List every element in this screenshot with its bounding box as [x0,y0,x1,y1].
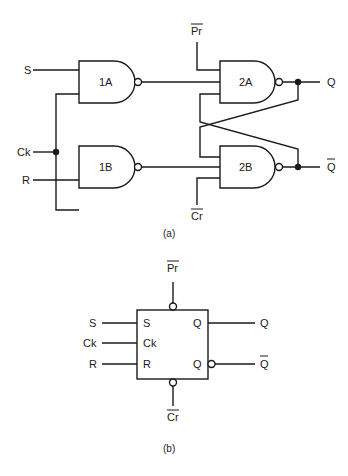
gate-label-1a: 1A [99,76,113,88]
gate-label-1b: 1B [99,161,112,173]
nand-gate-1b: 1B [79,146,142,188]
figure-b: Pr Cr S S Ck Ck R R Q Q Q Q (b) [83,261,269,454]
wire-ck-split [56,94,79,210]
inversion-bubble-icon [276,164,283,171]
figure-a: S Ck R 1A 1B Pr Cr [17,24,336,239]
input-label-ck: Ck [17,146,31,158]
output-label-q: Q [327,76,336,88]
input-label-r: R [22,174,30,186]
input-label-cr: Cr [167,411,179,423]
input-label-ck: Ck [83,337,97,349]
inversion-bubble-icon [208,361,215,368]
input-label-pr: Pr [167,262,178,274]
inversion-bubble-icon [276,79,283,86]
gate-label-2b: 2B [239,161,252,173]
wire-pr [197,42,220,70]
output-label-qbar: Q [327,161,336,173]
gate-label-2a: 2A [239,76,253,88]
pin-label-qbar: Q [193,358,202,370]
input-label-s: S [24,64,31,76]
inversion-bubble-icon [135,79,142,86]
wire-cr [197,178,220,205]
nand-gate-2a: 2A [220,61,283,103]
pin-label-s: S [143,317,150,329]
output-label-q: Q [260,317,269,329]
nand-gate-2b: 2B [220,146,283,188]
output-label-qbar: Q [260,358,269,370]
input-label-cr: Cr [191,210,203,222]
pin-label-q: Q [193,317,202,329]
pin-label-r: R [143,358,151,370]
nand-gate-1a: 1A [79,61,142,103]
inversion-bubble-icon [135,164,142,171]
rs-flipflop-diagram: S Ck R 1A 1B Pr Cr [0,0,348,476]
input-label-r: R [89,358,97,370]
input-label-pr: Pr [191,25,202,37]
pin-label-ck: Ck [143,337,157,349]
inversion-bubble-icon [170,303,177,310]
input-label-s: S [89,317,96,329]
caption-a: (a) [163,228,175,239]
inversion-bubble-icon [170,379,177,386]
caption-b: (b) [163,443,175,454]
